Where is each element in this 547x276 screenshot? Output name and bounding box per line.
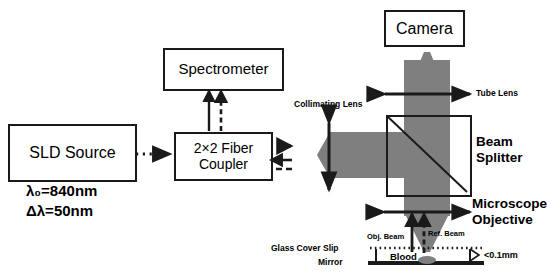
beam-splitter-diagonal <box>387 116 467 192</box>
blood-droplet <box>418 256 436 264</box>
thickness-caliper-bracket <box>470 249 479 261</box>
